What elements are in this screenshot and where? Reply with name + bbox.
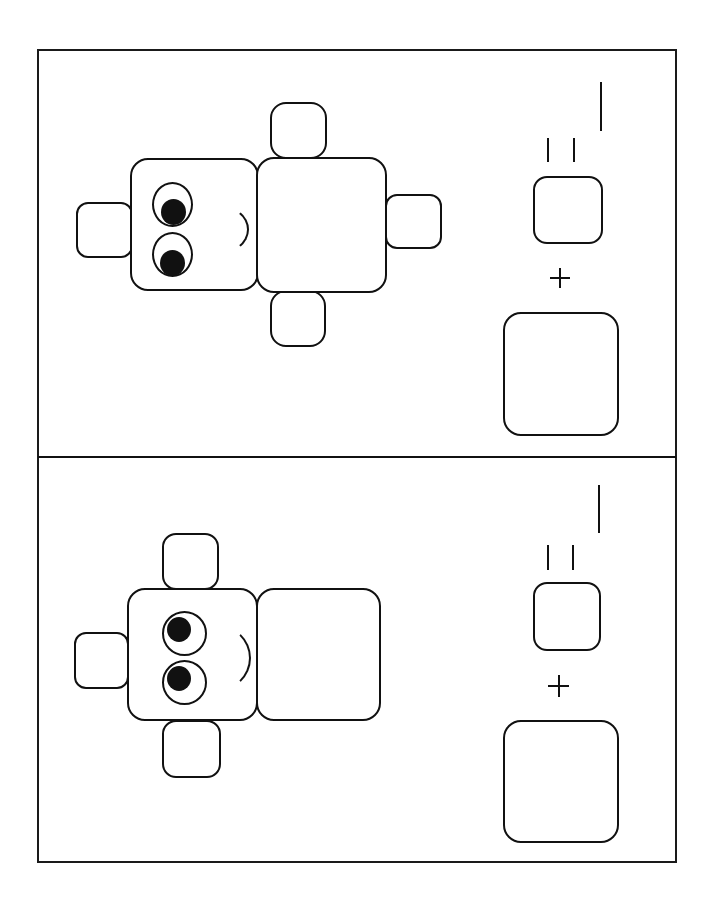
robot-body (256, 588, 381, 721)
equation-big-square (503, 720, 619, 843)
robot-body (256, 157, 387, 293)
equation-small-square (533, 176, 603, 244)
answer-blank-line[interactable] (598, 485, 600, 533)
robot-smile (180, 624, 251, 692)
equation-small-square (533, 582, 601, 651)
panel-2-description: robot figure: head with two eyes and smi… (0, 0, 1, 1)
robot-leg-right (385, 194, 442, 249)
robot-arm-top (162, 533, 219, 590)
robot-smile (185, 204, 249, 255)
robot-arm-bottom (162, 720, 221, 778)
equation-big-square (503, 312, 619, 436)
answer-blank-line[interactable] (600, 82, 602, 131)
panel-divider (38, 456, 676, 458)
robot-arm-top (270, 102, 327, 159)
robot-ear (74, 632, 129, 689)
robot-ear (76, 202, 133, 258)
robot-arm-bottom (270, 290, 326, 347)
robot-pupil-top (161, 199, 186, 225)
panel-1-description: robot figure: head with two eyes and smi… (0, 0, 1, 1)
robot-pupil-bottom (160, 250, 185, 276)
